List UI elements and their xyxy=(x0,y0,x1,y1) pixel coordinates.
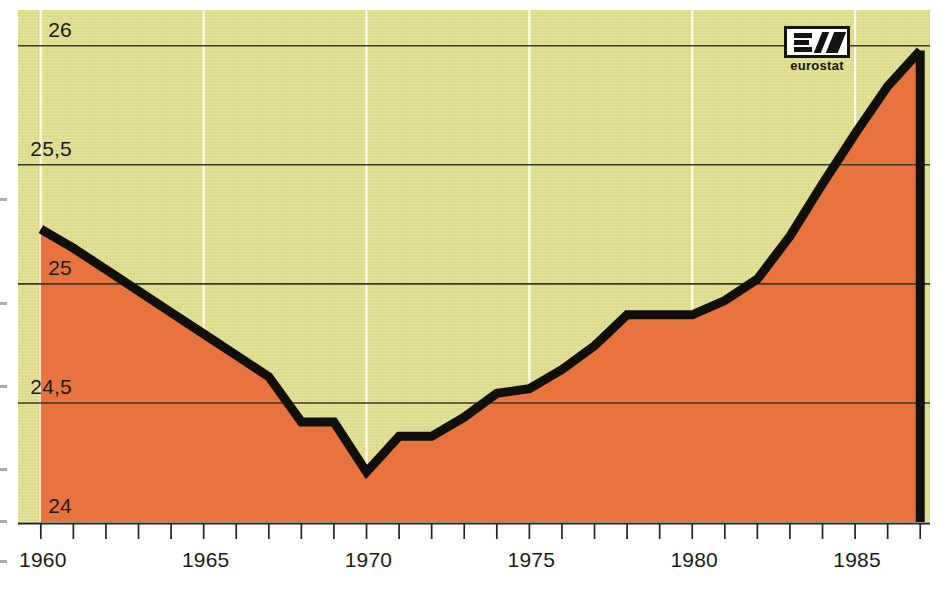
plot-area xyxy=(18,10,930,522)
y-tick-label: 24 xyxy=(48,494,72,518)
y-tick-label: 25 xyxy=(48,256,72,280)
y-tick-label: 25,5 xyxy=(30,137,72,161)
x-tick-label: 1985 xyxy=(833,548,881,572)
y-tick-label: 26 xyxy=(48,18,72,42)
eurostat-wordmark: eurostat xyxy=(781,59,853,73)
eurostat-mark-icon xyxy=(784,26,850,58)
area-chart-svg xyxy=(18,10,930,522)
area-series xyxy=(41,50,920,522)
x-tick-label: 1970 xyxy=(345,548,393,572)
x-axis: 196019651970197519801985 xyxy=(0,538,948,578)
eurostat-logo: eurostat xyxy=(781,26,853,73)
y-tick-label: 24,5 xyxy=(30,375,72,399)
chart-figure: 2625,52524,524 196019651970197519801985 … xyxy=(0,0,948,598)
area-fill xyxy=(41,50,920,522)
x-tick-label: 1960 xyxy=(19,548,67,572)
x-tick-label: 1975 xyxy=(508,548,556,572)
x-tick-label: 1965 xyxy=(182,548,230,572)
y-axis: 2625,52524,524 xyxy=(0,0,72,598)
x-tick-label: 1980 xyxy=(670,548,718,572)
